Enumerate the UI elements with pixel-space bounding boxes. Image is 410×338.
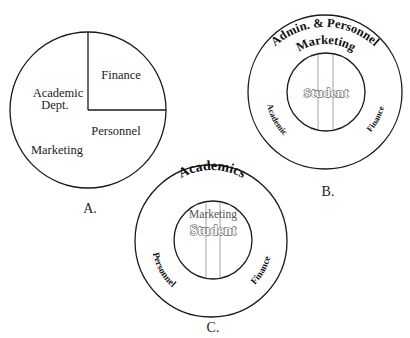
arc-label-academics: Academics — [176, 158, 249, 181]
diagram-c: Academics Marketing Personnel Finance St… — [135, 158, 287, 335]
diagram-a: Finance Academic Dept. Personnel Marketi… — [10, 32, 166, 216]
arc-label-academic: Academic — [265, 103, 290, 138]
segment-personnel-label: Personnel — [91, 124, 141, 138]
center-label-student: Student — [303, 85, 349, 100]
center-label-student: Student — [190, 223, 237, 238]
segment-finance-label: Finance — [101, 68, 141, 82]
caption-a: A. — [83, 201, 97, 216]
segment-academic-label-line2: Dept. — [41, 98, 68, 112]
segment-marketing-label: Marketing — [31, 143, 84, 157]
arc-label-finance: Finance — [249, 255, 273, 286]
caption-c: C. — [207, 320, 220, 335]
caption-b: B. — [322, 184, 335, 199]
org-structure-diagrams: Finance Academic Dept. Personnel Marketi… — [0, 0, 410, 338]
diagram-b: Admin. & Personnel Marketing Academic Fi… — [248, 15, 402, 199]
outer-ring — [135, 165, 287, 317]
arc-label-personnel: Personnel — [151, 251, 178, 289]
arc-label-finance: Finance — [364, 105, 386, 134]
arc-label-marketing: Marketing — [294, 33, 359, 55]
inner-label-marketing: Marketing — [189, 208, 237, 221]
